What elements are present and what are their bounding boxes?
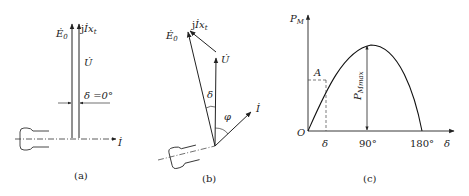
label-jix-b: jİxt [191, 19, 208, 32]
tick-180: 180° [410, 138, 434, 149]
rotor-icon-b [168, 142, 200, 169]
power-angle-curve [308, 45, 422, 131]
label-delta-b: δ [207, 89, 213, 100]
label-point-a: A [313, 67, 321, 78]
phi-arc-b [215, 128, 228, 134]
label-phi-b: φ [224, 111, 231, 122]
label-delta-a: δ =0° [84, 90, 113, 101]
label-pmax: PMmax [352, 71, 365, 101]
label-u-b: U̇ [221, 54, 230, 65]
caption-b: (b) [202, 173, 216, 184]
label-jix-a: jİxt [80, 23, 97, 36]
caption-c: (c) [363, 173, 377, 184]
tick-90: 90° [359, 138, 377, 149]
panel-c-power-angle-chart: PM O A PMmax δ 90° 180° δ (c) [289, 13, 454, 184]
label-e0-b: Ė0 [165, 30, 178, 43]
figure-canvas: Ė0 jİxt U̇ δ =0° İ (a) Ė0 jİxt U̇ δ φ İ … [0, 0, 469, 196]
u-vector-b [215, 58, 216, 146]
label-x-axis: δ [444, 138, 450, 149]
panel-b: Ė0 jİxt U̇ δ φ İ (b) [158, 19, 261, 184]
label-y-axis: PM [289, 13, 305, 26]
label-i-a: İ [117, 137, 123, 148]
panel-a: Ė0 jİxt U̇ δ =0° İ (a) [15, 23, 123, 181]
caption-a: (a) [74, 170, 88, 181]
delta-arc-b [206, 106, 215, 108]
tick-delta: δ [322, 138, 328, 149]
label-u-a: U̇ [84, 57, 93, 68]
jix-vector-b [190, 31, 216, 52]
label-origin: O [297, 127, 305, 138]
rotor-axis-b [158, 146, 215, 160]
label-i-b: İ [255, 103, 261, 114]
label-e0-a: Ė0 [55, 28, 68, 41]
